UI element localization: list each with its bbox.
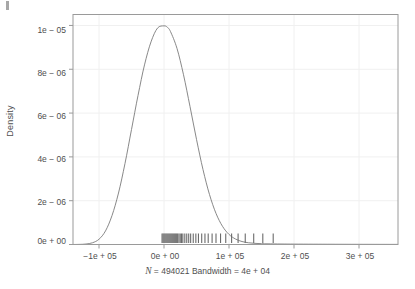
plot-caption: N = 494021 Bandwidth = 4e + 04 [0,266,415,276]
density-plot-figure: Density 1e − 05 8e − 06 6e − 06 4e − 06 … [0,0,415,289]
caption-text: = 494021 Bandwidth = 4e + 04 [151,266,269,276]
panel-background [73,15,398,245]
plot-panel [0,0,415,289]
